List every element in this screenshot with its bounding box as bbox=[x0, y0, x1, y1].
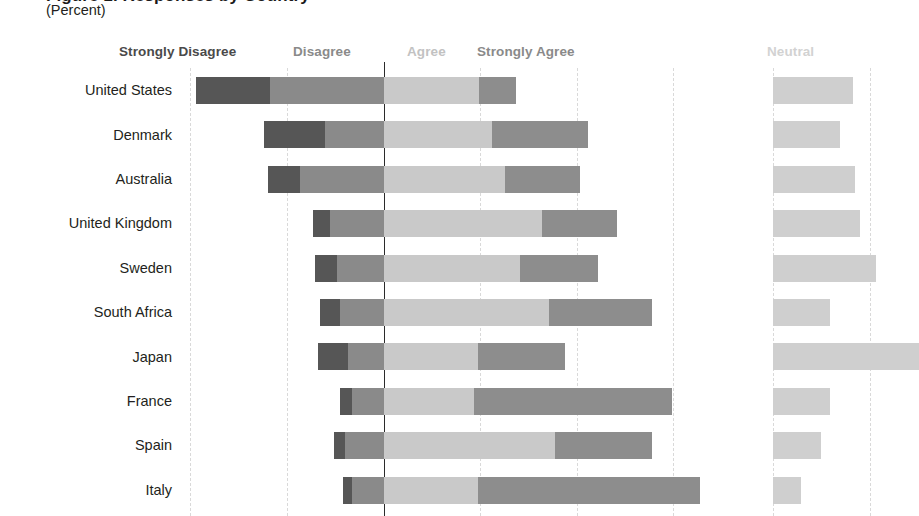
chart-legend: Strongly Disagree Disagree Agree Strongl… bbox=[0, 44, 919, 64]
segment-agree bbox=[384, 299, 549, 326]
stacked-bar bbox=[0, 121, 919, 148]
segment-neutral bbox=[773, 210, 860, 237]
stacked-bar bbox=[0, 343, 919, 370]
segment-strongly-agree bbox=[505, 166, 580, 193]
chart-subtitle: (Percent) bbox=[46, 2, 106, 18]
segment-strongly-disagree bbox=[268, 166, 300, 193]
legend-item-strongly-agree: Strongly Agree bbox=[477, 44, 575, 59]
stacked-bar bbox=[0, 477, 919, 504]
plot-area: United StatesDenmarkAustraliaUnited King… bbox=[0, 68, 919, 516]
segment-agree bbox=[384, 388, 474, 415]
segment-strongly-disagree bbox=[196, 77, 270, 104]
segment-neutral bbox=[773, 166, 855, 193]
segment-strongly-agree bbox=[479, 77, 516, 104]
legend-item-neutral: Neutral bbox=[767, 44, 814, 59]
legend-item-agree: Agree bbox=[407, 44, 446, 59]
stacked-bar bbox=[0, 388, 919, 415]
segment-agree bbox=[384, 432, 555, 459]
stacked-bar bbox=[0, 432, 919, 459]
segment-neutral bbox=[773, 121, 840, 148]
segment-disagree bbox=[300, 166, 384, 193]
stacked-bar bbox=[0, 77, 919, 104]
segment-strongly-agree bbox=[555, 432, 652, 459]
segment-agree bbox=[384, 210, 542, 237]
segment-disagree bbox=[270, 77, 384, 104]
segment-agree bbox=[384, 477, 478, 504]
segment-strongly-disagree bbox=[343, 477, 352, 504]
segment-strongly-disagree bbox=[340, 388, 352, 415]
chart-row: Denmark bbox=[0, 112, 919, 156]
segment-neutral bbox=[773, 255, 876, 282]
legend-item-strongly-disagree: Strongly Disagree bbox=[119, 44, 236, 59]
segment-disagree bbox=[352, 477, 384, 504]
segment-disagree bbox=[348, 343, 384, 370]
segment-agree bbox=[384, 343, 478, 370]
chart-row: United States bbox=[0, 68, 919, 112]
chart-row: Australia bbox=[0, 157, 919, 201]
segment-disagree bbox=[325, 121, 384, 148]
segment-neutral bbox=[773, 343, 919, 370]
segment-agree bbox=[384, 77, 479, 104]
segment-strongly-disagree bbox=[315, 255, 337, 282]
segment-neutral bbox=[773, 432, 821, 459]
segment-agree bbox=[384, 121, 492, 148]
chart-row: Spain bbox=[0, 423, 919, 467]
segment-strongly-disagree bbox=[320, 299, 340, 326]
segment-neutral bbox=[773, 77, 853, 104]
segment-strongly-agree bbox=[520, 255, 598, 282]
segment-strongly-disagree bbox=[264, 121, 325, 148]
segment-strongly-disagree bbox=[313, 210, 330, 237]
segment-agree bbox=[384, 166, 505, 193]
segment-neutral bbox=[773, 299, 830, 326]
stacked-bar bbox=[0, 210, 919, 237]
segment-strongly-agree bbox=[474, 388, 672, 415]
chart-row: Japan bbox=[0, 334, 919, 378]
chart-row: South Africa bbox=[0, 290, 919, 334]
segment-strongly-agree bbox=[492, 121, 588, 148]
stacked-bar bbox=[0, 255, 919, 282]
segment-disagree bbox=[352, 388, 384, 415]
segment-disagree bbox=[340, 299, 384, 326]
segment-strongly-agree bbox=[549, 299, 652, 326]
stacked-bar bbox=[0, 299, 919, 326]
segment-strongly-disagree bbox=[334, 432, 345, 459]
chart-row: Italy bbox=[0, 468, 919, 512]
segment-strongly-disagree bbox=[318, 343, 348, 370]
chart-row: United Kingdom bbox=[0, 201, 919, 245]
segment-disagree bbox=[330, 210, 384, 237]
segment-disagree bbox=[337, 255, 384, 282]
segment-disagree bbox=[345, 432, 384, 459]
stacked-bar bbox=[0, 166, 919, 193]
segment-strongly-agree bbox=[478, 343, 565, 370]
segment-strongly-agree bbox=[478, 477, 700, 504]
segment-neutral bbox=[773, 477, 801, 504]
bar-rows: United StatesDenmarkAustraliaUnited King… bbox=[0, 68, 919, 516]
segment-strongly-agree bbox=[542, 210, 617, 237]
segment-neutral bbox=[773, 388, 830, 415]
legend-item-disagree: Disagree bbox=[293, 44, 351, 59]
chart-row: Sweden bbox=[0, 246, 919, 290]
chart-root: Figure 1. Responses by Country (Percent)… bbox=[0, 0, 919, 516]
segment-agree bbox=[384, 255, 520, 282]
chart-row: France bbox=[0, 379, 919, 423]
